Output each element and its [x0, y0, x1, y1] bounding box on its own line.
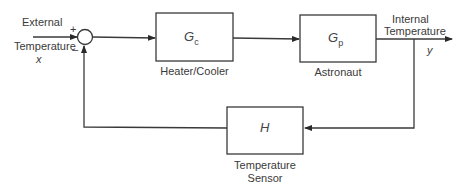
sensor-caption-line1: Temperature — [227, 159, 303, 171]
output-label-line1: Internal — [392, 13, 429, 25]
sensor-symbol: H — [260, 120, 269, 135]
feedback-branch-line — [305, 39, 414, 128]
plus-sign: + — [70, 23, 76, 35]
controller-symbol: Gc — [184, 29, 199, 47]
control-signal-line — [233, 38, 299, 39]
sensor-caption-line2: Sensor — [227, 172, 303, 184]
input-label-line1: External — [22, 16, 62, 28]
plant-caption: Astronaut — [300, 66, 376, 78]
controller-caption: Heater/Cooler — [156, 65, 233, 77]
input-symbol: x — [36, 53, 42, 65]
output-label-line2: Temperature — [384, 25, 446, 37]
output-symbol: y — [427, 44, 433, 56]
summing-junction — [78, 30, 93, 45]
minus-sign: – — [72, 43, 78, 55]
plant-symbol: Gp — [328, 30, 343, 48]
input-label-line2: Temperature — [14, 40, 76, 52]
error-signal-line — [93, 37, 156, 38]
